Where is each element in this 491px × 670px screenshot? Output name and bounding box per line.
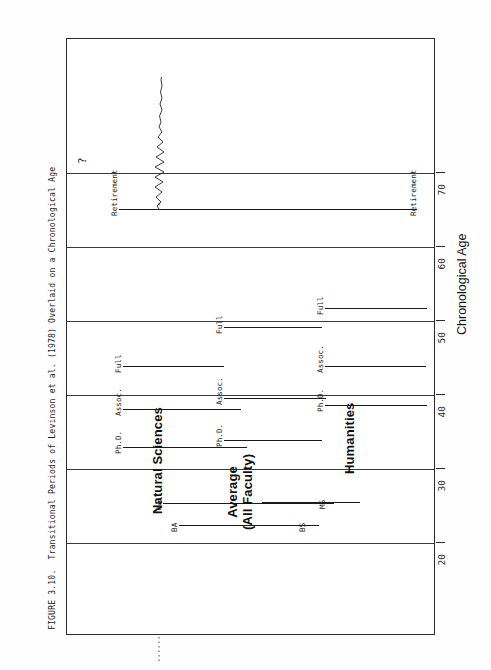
bar-average-assoc xyxy=(224,398,326,399)
bar-humanities-phd xyxy=(325,405,427,406)
axis-ticklabel-40: 40 xyxy=(436,406,447,417)
bar-label-humanities-assoc: Assoc. xyxy=(316,345,325,373)
bar-label-average-full: Full xyxy=(215,315,224,334)
axis-ticklabel-70: 70 xyxy=(436,184,447,195)
axis-tick-50 xyxy=(436,320,445,321)
bar-label-humanities-full: Full xyxy=(316,296,325,315)
bar-label-natural-sciences-full: Full xyxy=(114,354,123,373)
axis-tick-40 xyxy=(436,394,445,395)
bar-humanities-bs xyxy=(257,525,319,526)
bar-natural-sciences-full xyxy=(123,366,224,367)
axis-ticklabel-20: 20 xyxy=(436,554,447,565)
bar-label-humanities-retirement: Retirement xyxy=(409,170,418,216)
axis-tick-70 xyxy=(436,172,445,173)
bar-natural-sciences-retirement xyxy=(119,209,417,210)
bar-label-natural-sciences-ma: MA xyxy=(154,501,163,510)
axis-tick-60 xyxy=(436,246,445,247)
axis-tick-20 xyxy=(436,542,445,543)
gridline-age-60 xyxy=(67,247,434,248)
axis-ticklabel-50: 50 xyxy=(436,332,447,343)
bar-label-humanities-bs: BS xyxy=(298,523,307,532)
group-label-humanities: Humanities xyxy=(342,403,357,474)
bar-label-natural-sciences-phd: Ph.D. xyxy=(114,431,123,454)
gridline-age-70 xyxy=(67,173,434,174)
bar-label-average-phd: Ph.D. xyxy=(215,424,224,447)
bar-label-natural-sciences-assoc: Assoc. xyxy=(114,388,123,416)
bar-humanities-assoc xyxy=(325,366,426,367)
axis-tick-30 xyxy=(436,468,445,469)
group-label-average-line2: (All Faculty) xyxy=(241,454,256,530)
bar-label-average-assoc: Assoc. xyxy=(215,377,224,405)
bar-label-natural-sciences-retirement: Retirement xyxy=(110,170,119,216)
bar-humanities-full xyxy=(325,308,427,309)
group-label-average-line1: Average xyxy=(226,454,241,530)
bar-average-phd xyxy=(224,440,322,441)
axis-title-chronological-age: Chronological Age xyxy=(455,234,469,335)
bar-average-full xyxy=(224,327,322,328)
group-label-average-all-faculty: Average (All Faculty) xyxy=(226,454,255,530)
bar-label-humanities-ms: MS xyxy=(318,500,327,509)
gridline-age-50 xyxy=(67,321,434,322)
bar-label-humanities-phd: Ph.D. xyxy=(316,389,325,412)
bar-natural-sciences-assoc xyxy=(123,409,241,410)
bar-humanities-ms xyxy=(262,502,360,503)
axis-ticklabel-30: 30 xyxy=(436,480,447,491)
bar-label-natural-sciences-ba: BA xyxy=(170,523,179,532)
plot-area: ? Retirement Retirement Natural Sciences… xyxy=(66,38,435,635)
levinson-transition-trace xyxy=(137,77,181,670)
gridline-age-20 xyxy=(67,543,434,544)
bar-natural-sciences-phd xyxy=(123,447,247,448)
beyond-70-question-mark: ? xyxy=(76,157,89,164)
group-label-natural-sciences: Natural Sciences xyxy=(150,407,165,514)
caption-line-1: FIGURE 3.10. Transitional Periods of Lev… xyxy=(47,10,59,630)
axis-ticklabel-60: 60 xyxy=(436,258,447,269)
figure-page: FIGURE 3.10. Transitional Periods of Lev… xyxy=(0,0,491,670)
